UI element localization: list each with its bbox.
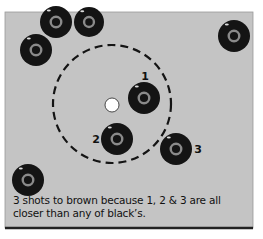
bowl-black-2 bbox=[74, 7, 104, 37]
bowl-number-label: 2 bbox=[92, 133, 100, 146]
bowl-brown-3 bbox=[160, 133, 192, 165]
bowl-black-1 bbox=[40, 6, 72, 38]
bowl-brown-2 bbox=[101, 123, 133, 155]
bowl-number-label: 3 bbox=[194, 143, 202, 156]
bowl-number-label: 1 bbox=[141, 70, 149, 83]
caption-text: 3 shots to brown because 1, 2 & 3 are al… bbox=[13, 194, 253, 219]
bowls-diagram: 123 3 shots to brown because 1, 2 & 3 ar… bbox=[0, 0, 263, 239]
bowl-black-5 bbox=[12, 164, 44, 196]
bowl-brown-1 bbox=[128, 82, 160, 114]
bowl-black-4 bbox=[218, 20, 250, 52]
bowl-black-3 bbox=[20, 34, 52, 66]
jack bbox=[105, 98, 119, 112]
